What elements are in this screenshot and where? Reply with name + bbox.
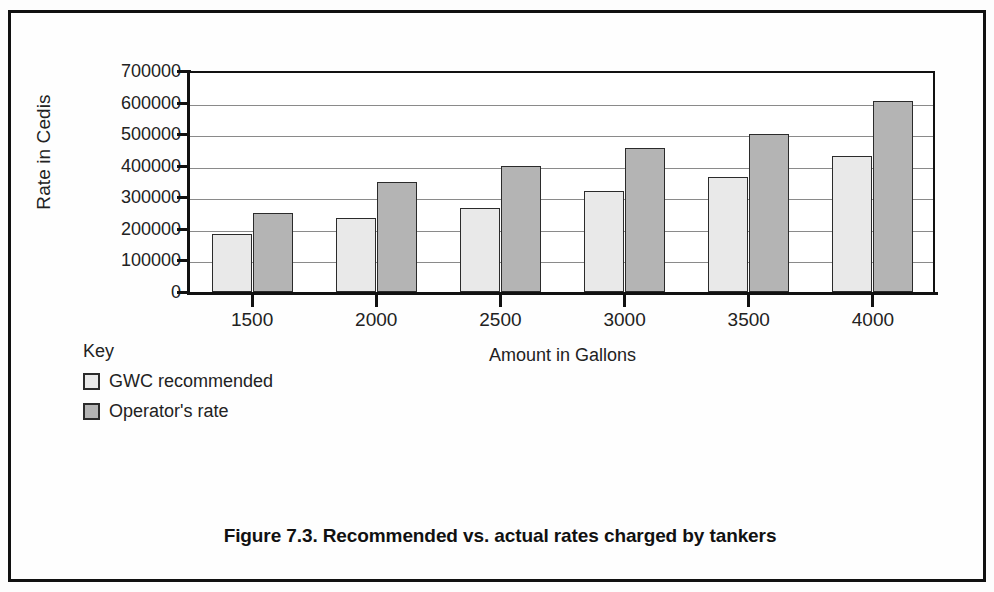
bar: [584, 191, 624, 292]
x-axis-tick-label: 4000: [813, 309, 933, 331]
legend-item: GWC recommended: [83, 371, 423, 392]
bar: [501, 166, 541, 292]
legend-items: GWC recommendedOperator's rate: [83, 371, 423, 422]
bars-layer: [190, 71, 935, 292]
x-axis-tick: [375, 295, 378, 307]
y-axis-tick-labels: 0100000200000300000400000500000600000700…: [89, 71, 181, 293]
y-axis-tick: [177, 165, 191, 168]
x-axis-tick-labels: 150020002500300035004000: [190, 309, 935, 335]
bar: [708, 177, 748, 292]
screenshot-page: Rate in Cedis 01000002000003000004000005…: [0, 0, 994, 592]
x-axis-tick-label: 2500: [440, 309, 560, 331]
x-axis-tick-label: 3500: [689, 309, 809, 331]
page-border: Rate in Cedis 01000002000003000004000005…: [8, 10, 986, 582]
bar-group: [438, 71, 562, 292]
x-axis-tick-label: 3000: [565, 309, 685, 331]
x-axis-tick: [871, 295, 874, 307]
x-axis-tick-label: 2000: [316, 309, 436, 331]
legend-label: Operator's rate: [109, 401, 229, 422]
legend-title: Key: [83, 341, 423, 362]
bar: [625, 148, 665, 292]
bar: [749, 134, 789, 292]
bar: [212, 234, 252, 292]
x-axis-tick: [623, 295, 626, 307]
bar: [460, 208, 500, 292]
y-axis-tick: [177, 70, 191, 73]
bar-group: [811, 71, 935, 292]
bar: [253, 213, 293, 292]
x-axis-tick-label: 1500: [192, 309, 312, 331]
bar: [336, 218, 376, 292]
y-axis-tick: [177, 133, 191, 136]
y-axis-tick-label: 700000: [89, 62, 181, 80]
y-axis-tick-label: 200000: [89, 220, 181, 238]
figure-caption: Figure 7.3. Recommended vs. actual rates…: [11, 525, 989, 547]
legend-label: GWC recommended: [109, 371, 273, 392]
legend-item: Operator's rate: [83, 401, 423, 422]
y-axis-tick: [177, 259, 191, 262]
x-axis-ticks: [190, 295, 935, 307]
y-axis-tick-label: 100000: [89, 251, 181, 269]
x-axis-tick: [251, 295, 254, 307]
y-axis-tick-label: 300000: [89, 188, 181, 206]
bar: [377, 182, 417, 293]
bar: [832, 156, 872, 292]
x-axis-tick: [499, 295, 502, 307]
bar-group: [190, 71, 314, 292]
bar: [873, 101, 913, 292]
y-axis-tick: [177, 196, 191, 199]
y-axis-tick: [177, 102, 191, 105]
legend-swatch-icon: [83, 373, 100, 390]
y-axis-tick-label: 600000: [89, 94, 181, 112]
y-axis-tick-label: 400000: [89, 157, 181, 175]
y-axis-tick-label: 500000: [89, 125, 181, 143]
bar-group: [687, 71, 811, 292]
legend-swatch-icon: [83, 403, 100, 420]
chart-legend: Key GWC recommendedOperator's rate: [83, 341, 423, 431]
bar-group: [314, 71, 438, 292]
bar-chart-figure: Rate in Cedis 01000002000003000004000005…: [11, 13, 989, 585]
bar-group: [563, 71, 687, 292]
y-axis-tick-label: 0: [89, 283, 181, 301]
y-axis-tick: [177, 228, 191, 231]
y-axis-title: Rate in Cedis: [33, 72, 55, 232]
x-axis-tick: [747, 295, 750, 307]
